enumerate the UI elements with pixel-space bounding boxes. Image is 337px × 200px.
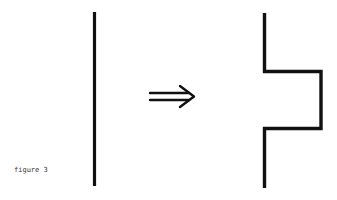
figure-caption: figure 3 <box>14 166 48 174</box>
arrow-icon <box>150 86 194 107</box>
figure-diagram <box>0 0 337 200</box>
bumped-line <box>265 13 322 188</box>
